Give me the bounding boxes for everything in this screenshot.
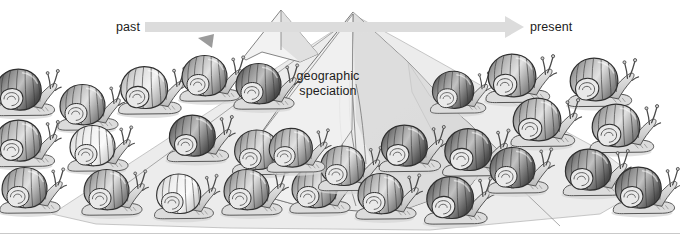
snail-body — [588, 104, 661, 156]
speciation-line-2: speciation — [299, 84, 356, 98]
snail — [0, 168, 67, 217]
ridge-notch — [198, 34, 214, 48]
snail — [611, 167, 680, 217]
time-arrow-shaft — [145, 22, 507, 32]
snail — [117, 67, 188, 118]
snail-body — [117, 67, 188, 118]
snail-body — [611, 167, 680, 217]
snail — [0, 120, 61, 170]
snail-body — [429, 71, 492, 116]
snail-body — [0, 168, 67, 217]
time-arrow-head — [505, 16, 524, 38]
snail — [588, 104, 661, 156]
snail-body — [66, 126, 135, 175]
label-present: present — [530, 20, 572, 34]
snail — [66, 126, 135, 175]
snail-body — [484, 54, 557, 106]
label-past: past — [116, 20, 140, 34]
snail-body — [0, 69, 61, 119]
illustration-canvas — [0, 0, 680, 234]
speciation-line-1: geographic — [297, 69, 360, 83]
label-geographic-speciation: geographic speciation — [288, 69, 368, 98]
snail — [0, 69, 61, 119]
snail-body — [0, 120, 61, 170]
snail — [429, 71, 492, 116]
figure-geographic-speciation: past present geographic speciation — [0, 0, 680, 234]
snail — [484, 54, 557, 106]
